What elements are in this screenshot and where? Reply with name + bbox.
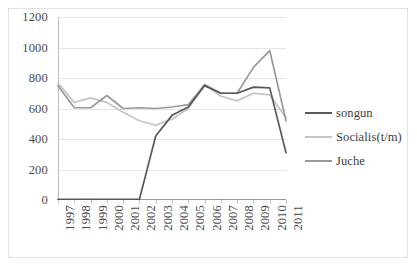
series-line-songun xyxy=(58,86,286,200)
chart-figure: 020040060080010001200 199719981999200020… xyxy=(0,0,417,269)
x-tick-label: 1998 xyxy=(79,205,94,231)
x-tick-label: 2006 xyxy=(210,205,225,231)
legend-item-songun[interactable]: songun xyxy=(305,103,413,123)
legend-line-swatch xyxy=(305,136,332,138)
x-tick-label: 2005 xyxy=(193,205,208,231)
y-tick-label: 600 xyxy=(29,101,48,116)
legend-item-socialis-t-m[interactable]: Socialis(t/m) xyxy=(305,127,413,147)
y-tick-label: 1000 xyxy=(22,40,48,55)
chart-legend: songunSocialis(t/m)Juche xyxy=(305,103,413,175)
x-tick-label: 2002 xyxy=(144,205,159,231)
x-tick-label: 2010 xyxy=(275,205,290,231)
x-axis-tick-labels: 1997199819992000200120022003200420052006… xyxy=(58,203,286,259)
x-tick-mark xyxy=(286,200,287,204)
x-tick-label: 2011 xyxy=(291,205,306,230)
y-axis-tick-labels: 020040060080010001200 xyxy=(8,17,54,200)
plot-area xyxy=(58,17,286,200)
legend-line-swatch xyxy=(305,112,332,114)
x-tick-label: 2007 xyxy=(226,205,241,231)
legend-label: Juche xyxy=(336,154,365,169)
legend-label: Socialis(t/m) xyxy=(336,130,402,145)
series-line-juche xyxy=(58,51,286,121)
y-tick-label: 1200 xyxy=(22,10,48,25)
legend-label: songun xyxy=(336,106,373,121)
y-tick-label: 0 xyxy=(42,193,48,208)
x-tick-label: 2003 xyxy=(161,205,176,231)
series-line-socialis-t-m xyxy=(58,83,286,125)
series-lines xyxy=(58,17,286,200)
x-tick-label: 2001 xyxy=(128,205,143,231)
legend-item-juche[interactable]: Juche xyxy=(305,151,413,171)
x-tick-label: 2000 xyxy=(112,205,127,231)
x-tick-label: 1997 xyxy=(63,205,78,231)
y-tick-label: 400 xyxy=(29,132,48,147)
y-tick-label: 800 xyxy=(29,71,48,86)
x-tick-label: 2008 xyxy=(242,205,257,231)
y-tick-label: 200 xyxy=(29,162,48,177)
x-tick-label: 2009 xyxy=(258,205,273,231)
x-tick-label: 2004 xyxy=(177,205,192,231)
x-tick-label: 1999 xyxy=(96,205,111,231)
legend-line-swatch xyxy=(305,160,332,162)
